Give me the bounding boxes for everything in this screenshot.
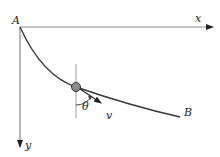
label-end-b: B (184, 107, 192, 118)
label-velocity: v (106, 110, 112, 121)
ball-icon (72, 83, 81, 92)
label-origin-a: A (12, 15, 20, 26)
label-x-axis: x (195, 13, 201, 24)
label-theta: θ (82, 101, 89, 112)
path-curve (20, 27, 180, 117)
diagram-canvas: A x y B θ v (0, 0, 220, 157)
label-y-axis: y (25, 140, 31, 151)
